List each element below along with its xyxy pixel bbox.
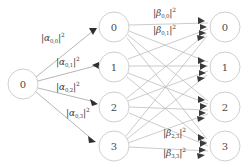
- node-hidden-1-label: 1: [111, 62, 117, 73]
- node-hidden-2[interactable]: 2: [99, 92, 129, 122]
- edge-label-alpha-0-0: |α0,0|2: [41, 33, 65, 44]
- arrowhead-output3-c: [199, 147, 206, 153]
- node-output-1[interactable]: 1: [210, 52, 240, 82]
- node-output-0[interactable]: 0: [210, 12, 240, 42]
- beta-0-1-subscript: 0,1: [161, 30, 169, 36]
- beta-2-3-subscript: 2,3: [171, 133, 179, 139]
- alpha-0-0-subscript: 0,0: [50, 38, 58, 44]
- arrowhead-output1-b: [200, 63, 207, 70]
- edge-hidden2-output2: [129, 107, 208, 110]
- arrowhead-output1-d: [197, 76, 205, 82]
- arrowhead-output1-a: [198, 57, 205, 64]
- output3-arrowheads: [197, 134, 207, 159]
- alpha-0-3-exponent: 2: [86, 107, 90, 113]
- node-hidden-3[interactable]: 3: [99, 131, 129, 161]
- beta-2-3-exponent: 2: [182, 127, 186, 133]
- node-input-0-label: 0: [20, 79, 26, 90]
- node-output-1-label: 1: [222, 62, 228, 73]
- node-output-0-label: 0: [222, 22, 228, 33]
- input-to-hidden-arrowheads: [88, 28, 99, 143]
- edge-label-alpha-0-3: |α0,3|2: [66, 108, 90, 119]
- arrowhead-output2-a: [198, 96, 205, 103]
- beta-3-3-exponent: 2: [182, 147, 186, 153]
- beta-0-0-subscript: 0,0: [161, 13, 169, 19]
- edge-hidden2-output1: [128, 71, 208, 101]
- arrowhead-hidden1: [92, 62, 99, 69]
- arrowhead-hidden0: [89, 28, 97, 35]
- edge-hidden1-output2: [128, 73, 208, 104]
- arrowhead-output3-d: [197, 153, 205, 159]
- edge-label-beta-2-3: |β2,3|2: [163, 128, 186, 139]
- arrowhead-output1-c: [199, 70, 206, 76]
- edge-label-beta-3-3: |β3,3|2: [163, 148, 186, 159]
- network-graph-svg: 0 0 1 2 3 0 1 2: [0, 0, 251, 167]
- edge-label-alpha-0-1: |α0,1|2: [56, 57, 80, 68]
- beta-0-0-exponent: 2: [172, 7, 176, 13]
- node-hidden-1[interactable]: 1: [99, 52, 129, 82]
- alpha-0-0-exponent: 2: [61, 32, 65, 38]
- node-hidden-0-label: 0: [111, 22, 117, 33]
- node-output-2[interactable]: 2: [210, 92, 240, 122]
- arrowhead-output0-b: [200, 24, 207, 30]
- edge-label-beta-0-1: |β0,1|2: [153, 25, 176, 36]
- alpha-0-3-subscript: 0,3: [75, 113, 83, 119]
- alpha-0-2-exponent: 2: [76, 81, 80, 87]
- alpha-0-2-subscript: 0,2: [65, 87, 73, 93]
- beta-3-3-subscript: 3,3: [171, 153, 179, 159]
- node-hidden-3-label: 3: [111, 141, 117, 152]
- node-output-3[interactable]: 3: [210, 131, 240, 161]
- network-diagram: 0 0 1 2 3 0 1 2: [0, 0, 251, 167]
- node-hidden-2-label: 2: [111, 102, 117, 113]
- arrowhead-hidden3: [88, 136, 96, 143]
- output2-arrowheads: [197, 96, 207, 122]
- beta-0-1-exponent: 2: [172, 24, 176, 30]
- arrowhead-output3-b: [200, 140, 207, 147]
- arrowhead-output2-b: [200, 103, 207, 110]
- alpha-0-1-exponent: 2: [76, 56, 80, 62]
- edge-label-alpha-0-2: |α0,2|2: [56, 82, 80, 93]
- node-output-3-label: 3: [222, 141, 228, 152]
- node-output-2-label: 2: [222, 102, 228, 113]
- node-hidden-0[interactable]: 0: [99, 12, 129, 42]
- arrowhead-hidden2: [90, 99, 98, 106]
- node-input-0[interactable]: 0: [8, 69, 38, 99]
- alpha-0-1-subscript: 0,1: [65, 62, 73, 68]
- edge-label-beta-0-0: |β0,0|2: [153, 8, 176, 19]
- edge-hidden0-output2: [128, 35, 208, 101]
